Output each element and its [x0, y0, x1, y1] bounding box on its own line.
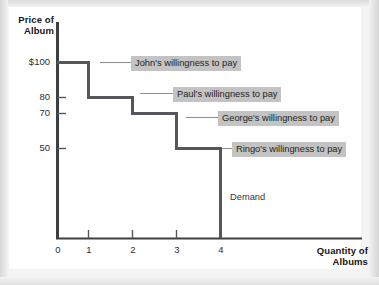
y-axis-title-line-1: Price of — [18, 14, 54, 25]
callout-john-willingness-to-pay: John's willingness to pay — [131, 56, 241, 71]
callout-george-willingness-to-pay: George's willingness to pay — [218, 111, 339, 126]
y-axis-title: Price of Album — [6, 14, 54, 36]
x-tick-label-2: 2 — [123, 244, 143, 255]
x-axis-ticks — [89, 230, 221, 238]
demand-curve-label: Demand — [230, 192, 265, 202]
callout-leader-lines — [100, 63, 232, 149]
y-axis-title-line-2: Album — [24, 25, 54, 36]
demand-curve-figure: Price of Album Quantity of Albums $100 8… — [0, 0, 379, 285]
x-tick-label-3: 3 — [167, 244, 187, 255]
x-tick-label-4: 4 — [211, 244, 231, 255]
x-axis-title-line-2: Albums — [333, 256, 368, 267]
callout-ringo-willingness-to-pay: Ringo's willingness to pay — [232, 142, 346, 157]
x-axis-title: Quantity of Albums — [272, 245, 368, 267]
x-axis-title-line-1: Quantity of — [317, 245, 368, 256]
callout-paul-willingness-to-pay: Paul's willingness to pay — [173, 87, 281, 102]
y-tick-label-80: 80 — [10, 91, 50, 102]
y-tick-label-50: 50 — [10, 142, 50, 153]
x-tick-label-0: 0 — [48, 244, 68, 255]
y-tick-label-100: $100 — [10, 56, 50, 67]
y-tick-label-70: 70 — [10, 107, 50, 118]
x-tick-label-1: 1 — [79, 244, 99, 255]
